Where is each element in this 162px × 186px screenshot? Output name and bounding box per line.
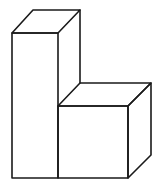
tall-prism-top-face	[12, 10, 80, 33]
cube-front-face	[58, 106, 128, 178]
tall-prism-front-face	[12, 33, 58, 178]
cube-side-face	[128, 83, 151, 178]
block-figure-diagram	[0, 0, 162, 186]
cube	[58, 83, 151, 178]
cube-top-face	[58, 83, 151, 106]
